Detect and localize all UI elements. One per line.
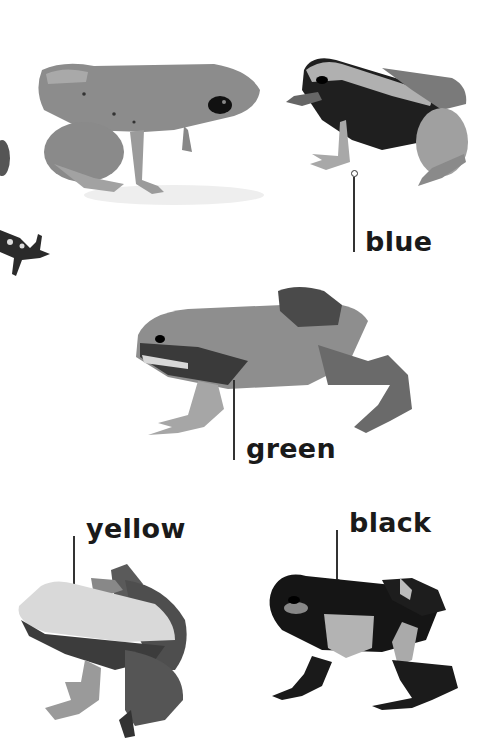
label-black: black — [349, 509, 431, 536]
label-yellow: yellow — [86, 515, 186, 542]
frog-unlabeled-gray — [24, 60, 264, 205]
frog-yellow — [15, 550, 195, 740]
callout-dot-blue — [351, 170, 358, 177]
frog-blue — [282, 50, 478, 195]
label-blue: blue — [365, 228, 432, 255]
frog-black — [262, 570, 462, 720]
label-green: green — [246, 435, 336, 462]
callout-line-blue — [353, 177, 355, 252]
frog-green — [128, 285, 423, 450]
callout-line-green — [233, 380, 235, 460]
